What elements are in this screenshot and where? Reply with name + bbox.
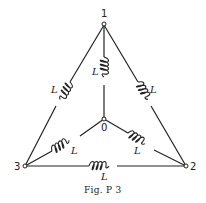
inductor-1-3: L <box>25 25 104 166</box>
inductor-3-2: L <box>25 162 186 183</box>
node-1-terminal <box>102 22 106 26</box>
node-2-terminal <box>184 164 188 168</box>
node-3-label: 3 <box>14 161 20 172</box>
figure-caption: Fig. P 3 <box>84 185 122 195</box>
inductor-label: L <box>91 66 99 77</box>
inductor-label: L <box>70 145 78 156</box>
inductor-label: L <box>149 84 157 95</box>
node-1-label: 1 <box>101 8 107 19</box>
inductor-label: L <box>50 84 58 95</box>
node-2-label: 2 <box>190 161 196 172</box>
inductor-2-0: L <box>104 119 186 166</box>
node-0-label: 0 <box>101 122 107 133</box>
node-3-terminal <box>23 164 27 168</box>
inductor-1-2: L <box>104 25 186 166</box>
node-0-terminal <box>102 117 106 121</box>
inductor-label: L <box>133 145 141 156</box>
circuit-diagram: L L L L L L 1 2 3 0 Fig. <box>0 0 206 203</box>
inductor-1-0: L <box>91 25 109 119</box>
inductor-label: L <box>100 171 108 182</box>
